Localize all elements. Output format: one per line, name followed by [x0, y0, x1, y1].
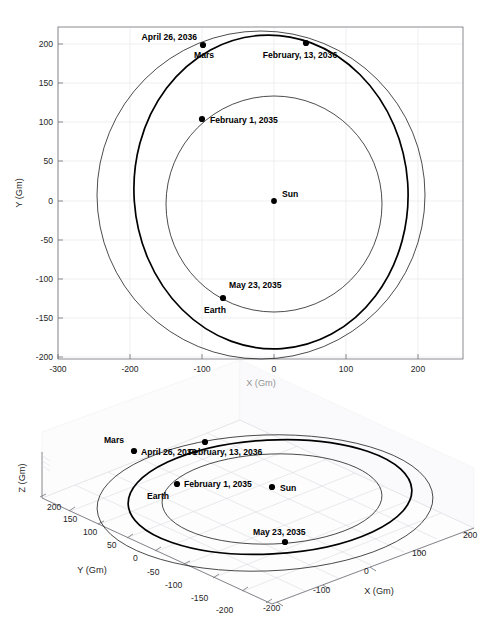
- x-tick-label-3d: 200: [463, 530, 478, 540]
- y-tick-label-3d: -150: [191, 593, 208, 603]
- label-earth-2d: Earth: [204, 305, 226, 315]
- y-tick-label: -100: [36, 274, 53, 284]
- x-tick-label: 0: [272, 364, 277, 374]
- y-tick-label: 50: [43, 156, 53, 166]
- marker-may-23-2035-2d: [220, 295, 226, 301]
- label-earth-3d: Earth: [147, 491, 169, 501]
- marker-sun-2d: [271, 198, 277, 204]
- x-tick-label: 100: [339, 364, 354, 374]
- y-tick-label-3d: -200: [216, 605, 233, 615]
- x-tick-label: -200: [121, 364, 138, 374]
- marker-april-26-2036-3d: [131, 448, 137, 454]
- label-february-13-2036-2d: February, 13, 2036: [263, 50, 338, 60]
- marker-february-13-2036-3d: [202, 439, 208, 445]
- y-tick-label-3d: -100: [165, 580, 182, 590]
- y-tick-label-3d: 150: [63, 514, 78, 524]
- y-tick-label: -150: [36, 313, 53, 323]
- y-axis-title-3d: Y (Gm): [77, 565, 106, 575]
- label-february-13-2036-3d: February, 13, 2036: [188, 447, 263, 457]
- label-sun-2d: Sun: [282, 189, 298, 199]
- y-tick-label-3d: 50: [107, 540, 117, 550]
- x-tick-label-3d: 100: [412, 548, 427, 558]
- orbit-transfer-figure: 200 150 100 50 0 -50 -100 -150 -200 -300…: [0, 0, 502, 629]
- x-tick-label: -300: [49, 364, 66, 374]
- label-february-1-2035-2d: February 1, 2035: [210, 115, 278, 125]
- y-tick-label: -200: [36, 352, 53, 362]
- x-tick-label-3d: -100: [313, 585, 330, 595]
- label-mars-3d: Mars: [104, 435, 124, 445]
- x-tick-label-3d: -200: [263, 603, 280, 613]
- label-may-23-2035-2d: May 23, 2035: [229, 280, 282, 290]
- label-mars-2d: Mars: [194, 50, 214, 60]
- y-tick-label: 150: [39, 78, 54, 88]
- y-tick-label-3d: -50: [147, 567, 160, 577]
- z-axis-title-3d: Z (Gm): [17, 463, 27, 492]
- label-may-23-2035-3d: May 23, 2035: [253, 527, 306, 537]
- marker-february-13-2036-2d: [303, 40, 309, 46]
- y-tick-label-3d: 100: [83, 527, 98, 537]
- label-february-1-2035-3d: February 1, 2035: [184, 479, 252, 489]
- y-tick-label-3d: 0: [133, 553, 138, 563]
- y-axis-title-2d: Y (Gm): [14, 178, 24, 207]
- marker-april-26-2036-2d: [200, 42, 206, 48]
- y-tick-label: 100: [39, 117, 54, 127]
- x-tick-label: 200: [411, 364, 426, 374]
- marker-sun-3d: [269, 484, 275, 490]
- label-sun-3d: Sun: [280, 483, 296, 493]
- label-april-26-2036-3d: April 26, 2036: [141, 447, 197, 457]
- marker-february-1-2035-2d: [199, 116, 205, 122]
- y-tick-label: 0: [48, 196, 53, 206]
- y-tick-label: -50: [41, 235, 54, 245]
- x-tick-label-3d: 0: [364, 566, 369, 576]
- y-tick-label: 200: [39, 39, 54, 49]
- label-april-26-2036-2d: April 26, 2036: [142, 32, 198, 42]
- marker-february-1-2035-3d: [174, 481, 180, 487]
- x-axis-title-3d: X (Gm): [364, 586, 394, 596]
- marker-may-23-2035-3d: [282, 539, 288, 545]
- y-tick-label-3d: 200: [47, 502, 62, 512]
